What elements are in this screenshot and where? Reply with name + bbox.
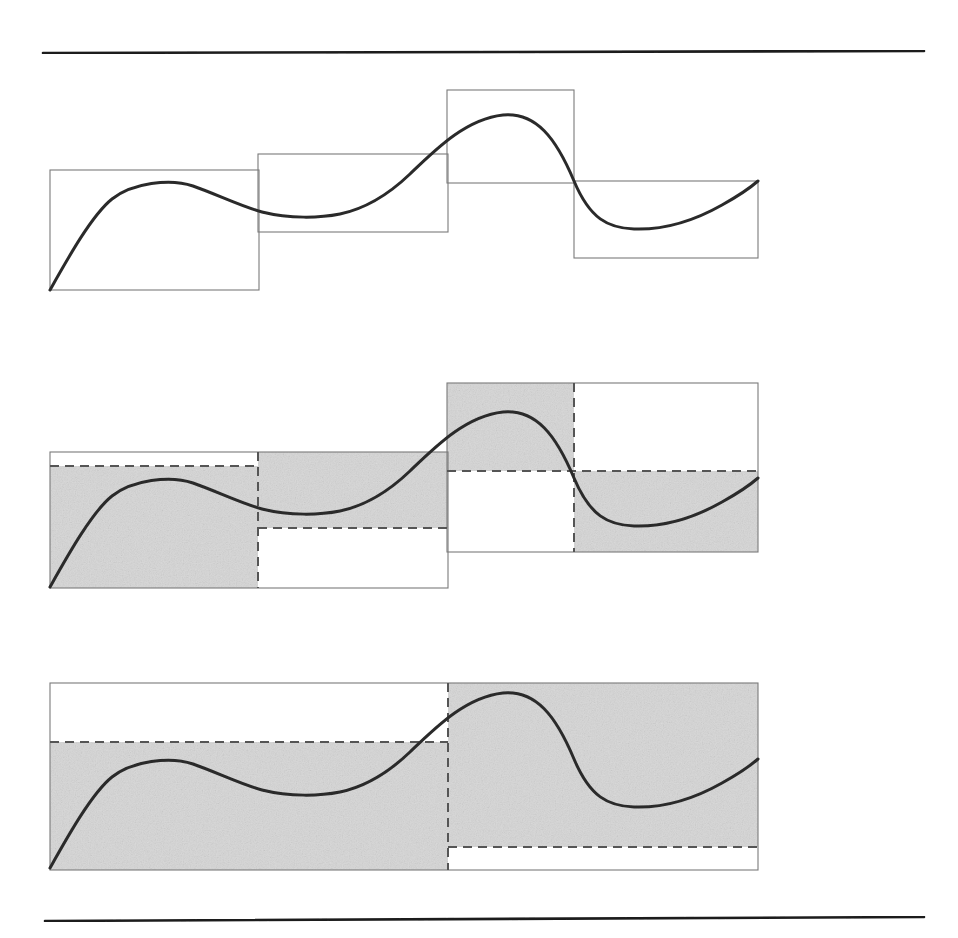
signal-curve-level1 <box>50 115 758 290</box>
bottom-rule <box>45 917 924 921</box>
box-1 <box>50 170 259 290</box>
shade-b-left <box>447 383 574 471</box>
panel-middle <box>50 383 758 588</box>
level1-box-outlines <box>50 90 758 290</box>
top-rule <box>43 51 924 53</box>
level2-shading <box>50 383 758 588</box>
panel-bottom <box>50 683 758 870</box>
shade-b-right <box>574 471 758 552</box>
shade-whole-left <box>50 742 448 870</box>
figure-canvas <box>0 0 958 938</box>
shade-a-left <box>50 466 258 588</box>
box-3 <box>447 90 574 183</box>
level3-shading <box>50 683 758 870</box>
figure-root <box>0 0 958 938</box>
panel-top <box>50 90 758 290</box>
shade-whole-right <box>448 683 758 847</box>
